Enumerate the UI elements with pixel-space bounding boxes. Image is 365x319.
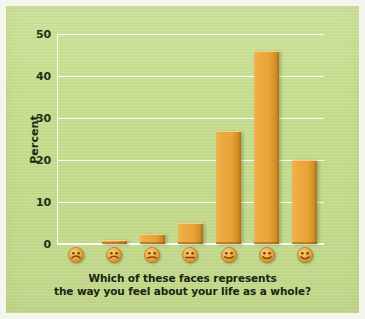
y-axis-tick-label: 0 <box>44 238 51 251</box>
x-axis-face-icons-group <box>57 246 324 270</box>
slightly-frowning-face-icon <box>133 246 171 264</box>
bar-slot <box>133 34 171 244</box>
bar-unhappy-face[interactable] <box>102 240 127 244</box>
bar-neutral-face[interactable] <box>178 223 203 244</box>
bar-happy-face[interactable] <box>254 51 279 244</box>
chart-figure: Percent 01020304050 <box>0 0 365 319</box>
plot-area: 01020304050 <box>57 34 324 244</box>
neutral-face-icon <box>171 246 209 264</box>
grinning-smiling-face-icon <box>286 246 324 264</box>
gridline <box>57 244 324 245</box>
bar-slightly-unhappy-face[interactable] <box>140 234 165 245</box>
bar-slot <box>95 34 133 244</box>
smiling-face-icon <box>248 246 286 264</box>
bar-slot <box>210 34 248 244</box>
frowning-face-icon <box>95 246 133 264</box>
caption-line-2: the way you feel about your life as a wh… <box>12 285 353 298</box>
y-axis-tick-label: 50 <box>36 28 51 41</box>
bar-slightly-happy-face[interactable] <box>216 131 241 244</box>
y-axis-tick-label: 10 <box>36 196 51 209</box>
bar-slot <box>286 34 324 244</box>
caption-line-1: Which of these faces represents <box>12 272 353 285</box>
slightly-smiling-face-icon <box>210 246 248 264</box>
bar-slot <box>171 34 209 244</box>
bar-slot <box>57 34 95 244</box>
y-axis-tick-label: 40 <box>36 70 51 83</box>
y-axis-label: Percent <box>26 34 42 244</box>
frowning-face-icon <box>57 246 95 264</box>
y-axis-tick-label: 30 <box>36 112 51 125</box>
chart-caption: Which of these faces represents the way … <box>12 272 353 298</box>
bar-slot <box>248 34 286 244</box>
y-axis-tick-label: 20 <box>36 154 51 167</box>
bar-very-happy-face[interactable] <box>292 160 317 244</box>
